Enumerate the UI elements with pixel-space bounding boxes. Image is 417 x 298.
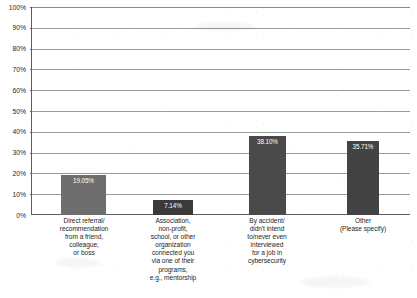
y-axis-tick-30: 30% <box>0 149 26 156</box>
x-label-line: Other <box>319 217 407 225</box>
x-label-line: connected you <box>128 249 218 257</box>
bar-chart: 100% 90% 80% 70% 60% 50% 40% 30% 20% 10%… <box>0 0 417 298</box>
bar-value-label: 35.71% <box>347 143 379 150</box>
y-axis-tick-10: 10% <box>0 191 26 198</box>
bar-value-label: 38.10% <box>249 138 286 145</box>
x-label-line: colleague, <box>41 241 127 249</box>
x-label-line: recommendation <box>41 225 127 233</box>
x-axis-label-direct-referral: Direct referral/ recommendation from a f… <box>41 217 127 257</box>
y-axis-tick-0: 0% <box>0 212 26 219</box>
y-axis-tick-80: 80% <box>0 45 26 52</box>
x-axis-label-by-accident: By accident/ didn't intend to/never even… <box>223 217 311 266</box>
bars-layer: 19.05% 7.14% 38.10% 35.71% <box>31 7 410 215</box>
y-axis-tick-100: 100% <box>0 4 26 11</box>
y-axis-tick-90: 90% <box>0 24 26 31</box>
x-label-line: or boss <box>41 249 127 257</box>
x-label-line: (Please specify) <box>319 225 407 233</box>
x-axis-label-association-nonprofit: Association, non-profit, school, or othe… <box>128 217 218 282</box>
x-label-line: e.g., mentorship <box>128 274 218 282</box>
x-label-line: cybersecurity <box>223 257 311 265</box>
x-label-line: Direct referral/ <box>41 217 127 225</box>
x-label-line: from a friend, <box>41 233 127 241</box>
bar-direct-referral[interactable]: 19.05% <box>61 175 106 215</box>
x-label-line: programs, <box>128 266 218 274</box>
x-label-line: via one of their <box>128 257 218 265</box>
bar-association-nonprofit[interactable]: 7.14% <box>153 200 193 215</box>
y-axis: 100% 90% 80% 70% 60% 50% 40% 30% 20% 10%… <box>0 0 30 298</box>
x-axis-label-other: Other (Please specify) <box>319 217 407 233</box>
bar-by-accident[interactable]: 38.10% <box>249 136 286 215</box>
y-axis-tick-50: 50% <box>0 108 26 115</box>
x-label-line: By accident/ <box>223 217 311 225</box>
y-axis-tick-70: 70% <box>0 66 26 73</box>
x-label-line: Association, <box>128 217 218 225</box>
x-label-line: to/never even <box>223 233 311 241</box>
bar-value-label: 19.05% <box>61 177 106 184</box>
x-label-line: didn't intend <box>223 225 311 233</box>
x-label-line: organization <box>128 241 218 249</box>
bar-other[interactable]: 35.71% <box>347 141 379 215</box>
y-axis-tick-20: 20% <box>0 170 26 177</box>
bar-value-label: 7.14% <box>153 202 193 209</box>
y-axis-tick-60: 60% <box>0 87 26 94</box>
y-axis-tick-40: 40% <box>0 128 26 135</box>
x-label-line: interviewed <box>223 241 311 249</box>
x-axis-labels: Direct referral/ recommendation from a f… <box>31 217 410 298</box>
x-label-line: school, or other <box>128 233 218 241</box>
x-label-line: for a job in <box>223 249 311 257</box>
x-label-line: non-profit, <box>128 225 218 233</box>
